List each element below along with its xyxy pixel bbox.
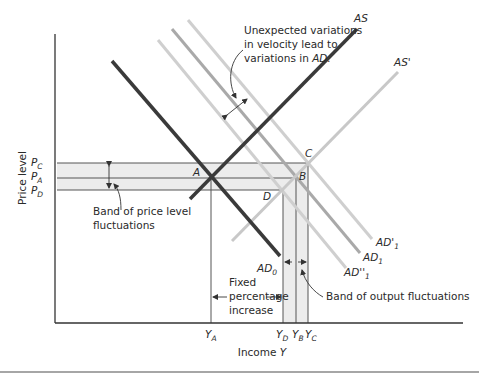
yb-label: YB — [292, 328, 304, 343]
as-prime-curve — [232, 72, 398, 241]
svg-text:variations in AD.: variations in AD. — [244, 52, 331, 64]
svg-text:increase: increase — [229, 304, 273, 316]
as-label: AS — [353, 12, 368, 24]
as-prime-label: AS' — [393, 56, 411, 68]
ad1-prime-label: AD'1 — [375, 236, 399, 251]
point-d-label: D — [263, 190, 271, 202]
svg-text:in velocity lead to: in velocity lead to — [244, 38, 338, 50]
svg-text:fluctuations: fluctuations — [93, 219, 155, 231]
yc-label: YC — [305, 328, 317, 343]
ad1-dprime-label: AD''1 — [343, 266, 370, 281]
pc-label: PC — [31, 156, 43, 171]
svg-text:Band of price level: Band of price level — [93, 205, 191, 217]
ad1-label: AD1 — [362, 251, 383, 266]
y-axis-label: Price level — [16, 151, 28, 205]
x-axis-label: Income Y — [238, 346, 288, 358]
svg-text:Band of output fluctuations: Band of output fluctuations — [326, 290, 470, 302]
svg-text:percentage: percentage — [229, 290, 289, 302]
svg-text:Fixed: Fixed — [229, 276, 256, 288]
point-a-label: A — [192, 166, 200, 178]
svg-text:Unexpected variations: Unexpected variations — [244, 24, 362, 36]
point-b-label: B — [299, 170, 306, 182]
pd-label: PD — [31, 184, 43, 199]
output-band-annotation: Band of output fluctuations — [285, 262, 470, 302]
velocity-annotation: Unexpected variations in velocity lead t… — [227, 24, 362, 115]
ad-as-diagram: Price level Income Y PC PA PD YA YD YB Y… — [0, 0, 479, 379]
yd-label: YD — [276, 328, 288, 343]
ya-label: YA — [205, 328, 217, 343]
point-c-label: C — [305, 147, 313, 159]
pa-label: PA — [31, 170, 42, 185]
